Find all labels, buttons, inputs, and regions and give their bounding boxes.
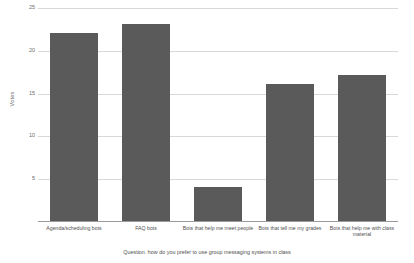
bar-chart-figure: Votes 510152025 Agenda/scheduling botsFA…	[0, 0, 414, 263]
gridline: 25	[38, 8, 398, 9]
y-axis-tick-label: 5	[32, 176, 35, 182]
bar	[122, 24, 170, 221]
y-axis-tick-label: 10	[29, 134, 35, 140]
x-axis-tick-label: Bots that help me meet people	[182, 225, 254, 231]
plot-area: 510152025	[38, 8, 398, 222]
x-axis-tick-label: Agenda/scheduling bots	[38, 225, 110, 231]
x-axis-caption: Question. how do you prefer to use group…	[0, 249, 414, 255]
y-axis-tick-label: 25	[29, 5, 35, 11]
x-axis-tick-label: Bots that help me with class material	[326, 225, 398, 237]
bar	[266, 84, 314, 221]
x-axis-tick-label: Bots that tell me my grades	[254, 225, 326, 231]
x-axis-line	[38, 221, 398, 222]
bar	[338, 75, 386, 221]
bar	[194, 187, 242, 221]
bar	[50, 33, 98, 221]
y-axis-tick-label: 15	[29, 91, 35, 97]
x-axis-tick-label: FAQ bots	[110, 225, 182, 231]
chart-title	[0, 0, 414, 5]
y-axis-title: Votes	[9, 79, 15, 119]
y-axis-tick-label: 20	[29, 48, 35, 54]
